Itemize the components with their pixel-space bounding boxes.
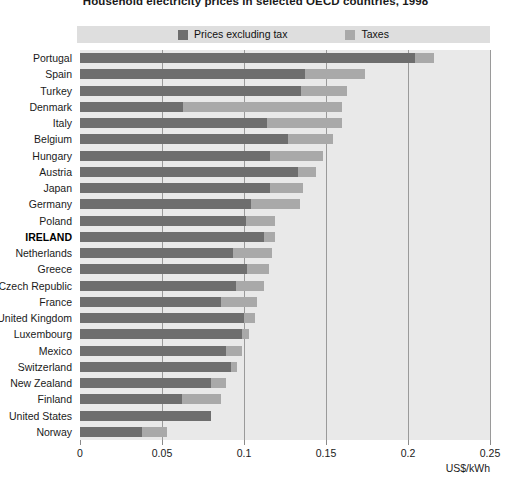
bar-segment-taxes[interactable] (244, 313, 255, 323)
bar-segment-taxes[interactable] (242, 329, 249, 339)
bar-row[interactable] (80, 281, 490, 291)
bar-row[interactable] (80, 199, 490, 209)
bar-segment-taxes[interactable] (246, 216, 276, 226)
bar-row[interactable] (80, 427, 490, 437)
x-axis-title: US$/kWh (0, 462, 490, 474)
bar-segment-taxes[interactable] (251, 199, 300, 209)
category-label: France (39, 297, 72, 308)
bar-row[interactable] (80, 53, 490, 63)
bar-segment-taxes[interactable] (305, 69, 366, 79)
legend-item-prices-excluding-tax[interactable]: Prices excluding tax (178, 29, 287, 40)
bar-row[interactable] (80, 102, 490, 112)
bar-segment-prices-excluding-tax[interactable] (80, 313, 244, 323)
bar-segment-prices-excluding-tax[interactable] (80, 411, 211, 421)
bar-row[interactable] (80, 118, 490, 128)
bar-segment-prices-excluding-tax[interactable] (80, 53, 415, 63)
x-tick-label: 0.25 (480, 447, 500, 459)
chart-title: Household electricity prices in selected… (0, 0, 511, 7)
chart-legend: Prices excluding tax Taxes (77, 26, 490, 43)
bar-segment-prices-excluding-tax[interactable] (80, 86, 301, 96)
bar-segment-prices-excluding-tax[interactable] (80, 362, 231, 372)
bar-segment-taxes[interactable] (211, 378, 226, 388)
bar-segment-taxes[interactable] (183, 102, 342, 112)
bar-segment-prices-excluding-tax[interactable] (80, 102, 183, 112)
bar-segment-taxes[interactable] (267, 118, 342, 128)
x-tick-label: 0.05 (152, 447, 172, 459)
bar-segment-prices-excluding-tax[interactable] (80, 281, 236, 291)
bar-segment-prices-excluding-tax[interactable] (80, 199, 251, 209)
category-label: Austria (39, 167, 72, 178)
bar-segment-taxes[interactable] (231, 362, 238, 372)
category-label: Belgium (34, 134, 72, 145)
bars-layer (80, 50, 490, 440)
bar-segment-prices-excluding-tax[interactable] (80, 69, 305, 79)
bar-row[interactable] (80, 264, 490, 274)
bar-segment-taxes[interactable] (226, 346, 242, 356)
legend-swatch-prices-excluding-tax (178, 30, 188, 40)
bar-segment-prices-excluding-tax[interactable] (80, 134, 288, 144)
bar-segment-taxes[interactable] (233, 248, 272, 258)
x-tick-label: 0.2 (401, 447, 416, 459)
bar-row[interactable] (80, 297, 490, 307)
category-label: Hungary (32, 151, 72, 162)
bar-segment-prices-excluding-tax[interactable] (80, 329, 242, 339)
bar-segment-taxes[interactable] (236, 281, 264, 291)
legend-item-taxes[interactable]: Taxes (345, 29, 388, 40)
bar-segment-taxes[interactable] (415, 53, 435, 63)
bar-row[interactable] (80, 313, 490, 323)
category-label: Spain (45, 69, 72, 80)
category-label: Luxembourg (14, 329, 72, 340)
category-label: Germany (29, 199, 72, 210)
category-label: Turkey (40, 86, 72, 97)
bar-row[interactable] (80, 151, 490, 161)
bar-segment-prices-excluding-tax[interactable] (80, 427, 142, 437)
bar-row[interactable] (80, 362, 490, 372)
category-label: United States (9, 411, 72, 422)
bar-segment-prices-excluding-tax[interactable] (80, 167, 298, 177)
bar-segment-taxes[interactable] (221, 297, 257, 307)
bar-segment-taxes[interactable] (142, 427, 167, 437)
bar-segment-taxes[interactable] (288, 134, 332, 144)
bar-segment-taxes[interactable] (264, 232, 275, 242)
bar-segment-prices-excluding-tax[interactable] (80, 216, 246, 226)
bar-row[interactable] (80, 216, 490, 226)
bar-segment-prices-excluding-tax[interactable] (80, 183, 270, 193)
bar-segment-taxes[interactable] (270, 183, 303, 193)
bar-row[interactable] (80, 86, 490, 96)
bar-segment-taxes[interactable] (301, 86, 347, 96)
legend-label-prices-excluding-tax: Prices excluding tax (194, 29, 287, 40)
bar-row[interactable] (80, 134, 490, 144)
bar-row[interactable] (80, 346, 490, 356)
bar-segment-prices-excluding-tax[interactable] (80, 264, 247, 274)
bar-row[interactable] (80, 167, 490, 177)
bar-segment-taxes[interactable] (270, 151, 322, 161)
bar-row[interactable] (80, 183, 490, 193)
bar-segment-prices-excluding-tax[interactable] (80, 232, 264, 242)
plot-area (80, 50, 491, 440)
x-tick-mark (490, 440, 491, 445)
bar-segment-taxes[interactable] (182, 394, 221, 404)
bar-segment-taxes[interactable] (298, 167, 316, 177)
bar-segment-prices-excluding-tax[interactable] (80, 118, 267, 128)
bar-segment-prices-excluding-tax[interactable] (80, 394, 182, 404)
category-label: Norway (36, 427, 72, 438)
bar-row[interactable] (80, 329, 490, 339)
bar-segment-prices-excluding-tax[interactable] (80, 248, 233, 258)
category-label: Poland (39, 216, 72, 227)
category-label: Italy (53, 118, 72, 129)
category-label: Denmark (29, 102, 72, 113)
bar-row[interactable] (80, 378, 490, 388)
bar-row[interactable] (80, 232, 490, 242)
bar-row[interactable] (80, 411, 490, 421)
bar-row[interactable] (80, 248, 490, 258)
chart-container: Household electricity prices in selected… (0, 0, 511, 485)
bar-row[interactable] (80, 69, 490, 79)
bar-segment-prices-excluding-tax[interactable] (80, 346, 226, 356)
bar-segment-taxes[interactable] (247, 264, 268, 274)
category-label: Mexico (39, 346, 72, 357)
category-label: Finland (38, 394, 72, 405)
bar-segment-prices-excluding-tax[interactable] (80, 151, 270, 161)
bar-row[interactable] (80, 394, 490, 404)
bar-segment-prices-excluding-tax[interactable] (80, 378, 211, 388)
bar-segment-prices-excluding-tax[interactable] (80, 297, 221, 307)
